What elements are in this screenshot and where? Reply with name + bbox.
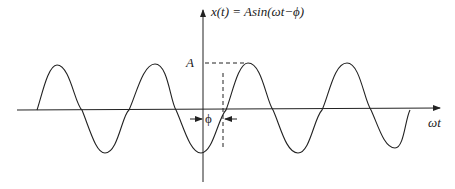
sine-wave-diagram: x(t) = Asin(ωt−ϕ) A ϕ ωt <box>0 0 455 189</box>
equation-label: x(t) = Asin(ωt−ϕ) <box>211 4 304 20</box>
amplitude-label: A <box>186 55 194 71</box>
x-axis-label: ωt <box>428 115 441 131</box>
diagram-canvas <box>0 0 455 189</box>
phase-label: ϕ <box>205 111 212 127</box>
